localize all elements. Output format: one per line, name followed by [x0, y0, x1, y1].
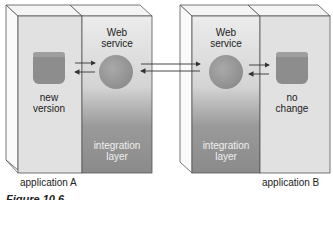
service-b-label: Web service: [201, 27, 251, 49]
figure-caption: Figure 10.6: [6, 193, 64, 200]
layer-b-label: integration layer: [192, 140, 260, 162]
layer-a-label: integration layer: [82, 140, 152, 162]
web-service-a-circle: [99, 55, 133, 89]
component-b-label: no change: [267, 92, 317, 114]
application-a-caption: application A: [20, 177, 77, 188]
service-a-label: Web service: [92, 27, 142, 49]
component-new-version: [33, 52, 65, 84]
component-no-change: [276, 52, 308, 84]
application-b-caption: application B: [262, 177, 319, 188]
component-a-label: new version: [24, 92, 74, 114]
web-service-b-circle: [209, 55, 243, 89]
